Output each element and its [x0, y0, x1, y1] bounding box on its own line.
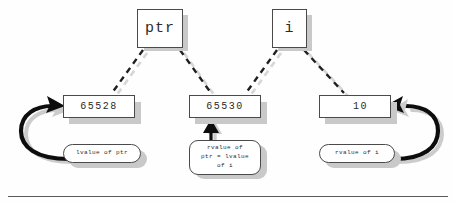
- rvalue-of-ptr-line3: of i: [217, 162, 233, 169]
- rvalue-of-i-label: rvalue of i: [335, 149, 379, 158]
- ptr-to-65528-dashed: [112, 50, 143, 93]
- ptr-to-65528-dashed-shadow: [116, 53, 147, 96]
- left-curved-arrow: [21, 106, 69, 159]
- lvalue-of-ptr-callout: lvalue of ptr: [63, 144, 141, 163]
- right-curved-arrow: [394, 106, 438, 159]
- rvalue-of-ptr-callout: rvalue of ptr = lvalue of i: [189, 140, 261, 175]
- cell-10: 10: [319, 95, 391, 118]
- i-variable-label: i: [284, 20, 294, 37]
- rvalue-of-ptr-label: rvalue of ptr = lvalue of i: [201, 144, 249, 170]
- bottom-divider: [8, 196, 448, 197]
- cell-65530: 65530: [189, 95, 261, 118]
- rvalue-of-i-callout: rvalue of i: [319, 144, 395, 163]
- cell-10-value: 10: [353, 101, 368, 112]
- ptr-to-65530-dashed-shadow: [184, 53, 215, 96]
- ptr-to-65530-dashed: [180, 50, 211, 93]
- i-to-65530-dashed: [246, 50, 277, 93]
- pointer-lvalue-rvalue-diagram: ptr i 65528 65530 10 lvalue of ptr rvalu…: [0, 0, 455, 203]
- rvalue-of-ptr-line1: rvalue of: [207, 144, 243, 151]
- lvalue-of-ptr-label: lvalue of ptr: [76, 149, 128, 158]
- ptr-variable-box: ptr: [137, 9, 183, 48]
- i-to-65530-dashed-shadow: [250, 53, 281, 96]
- rvalue-of-ptr-line2: ptr = lvalue: [201, 153, 249, 160]
- cell-65528-value: 65528: [80, 101, 118, 112]
- cell-65528: 65528: [63, 95, 135, 118]
- cell-65530-value: 65530: [206, 101, 244, 112]
- ptr-variable-label: ptr: [145, 20, 175, 37]
- i-variable-box: i: [272, 9, 307, 48]
